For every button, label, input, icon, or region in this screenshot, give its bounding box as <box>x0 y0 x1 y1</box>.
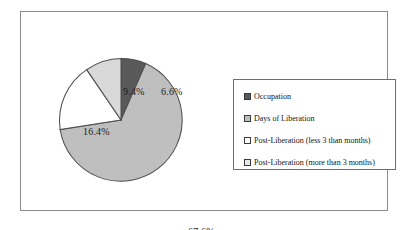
legend-item-label: Days of Liberation <box>254 115 314 123</box>
legend-swatch-icon <box>244 115 251 122</box>
pie-chart <box>57 56 185 184</box>
legend-item-label: Occupation <box>254 93 291 101</box>
legend-swatch-icon <box>244 159 251 166</box>
legend-item-label: Post-Liberation (more than 3 months) <box>254 159 375 167</box>
legend-item-occupation: Occupation <box>244 86 395 107</box>
legend-item-days-of-liberation: Days of Liberation <box>244 108 395 129</box>
legend-item-post-liberation-more: Post-Liberation (more than 3 months) <box>244 152 395 173</box>
pie-chart-area: 6.6% 67.6% 16.4% 9.4% <box>57 56 221 216</box>
legend: Occupation Days of Liberation Post-Liber… <box>233 79 396 170</box>
pie-label-days-of-liberation: 67.6% <box>188 226 215 230</box>
legend-swatch-icon <box>244 93 251 100</box>
pie-label-post-liberation-less: 16.4% <box>83 126 110 137</box>
pie-label-occupation: 6.6% <box>161 86 183 97</box>
pie-label-post-liberation-more: 9.4% <box>123 86 145 97</box>
legend-swatch-icon <box>244 137 251 144</box>
figure-frame: 6.6% 67.6% 16.4% 9.4% Occupation Days of… <box>20 11 388 211</box>
legend-item-post-liberation-less: Post-Liberation (less 3 than months) <box>244 130 395 151</box>
legend-item-label: Post-Liberation (less 3 than months) <box>254 137 370 145</box>
